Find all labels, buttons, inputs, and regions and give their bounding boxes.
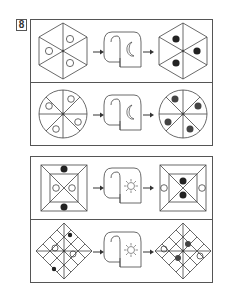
sun-scroll-icon xyxy=(104,232,141,267)
arrow-right-icon xyxy=(93,250,104,255)
hexagon-before-figure xyxy=(39,23,87,79)
moon-scroll-icon xyxy=(104,95,141,130)
sun-scroll-icon xyxy=(104,168,141,203)
arrow-right-icon xyxy=(143,250,154,255)
arrow-right-icon xyxy=(143,50,154,55)
moon-scroll-icon xyxy=(104,32,141,67)
square-after-figure xyxy=(160,165,206,211)
square-before-figure xyxy=(41,165,87,211)
puzzle-group-sun xyxy=(30,156,213,283)
hexagon-after-figure xyxy=(159,23,207,79)
puzzle-number-badge: 8 xyxy=(16,19,27,31)
puzzle-row-square xyxy=(31,157,212,220)
arrow-right-icon xyxy=(93,186,104,191)
arrow-right-icon xyxy=(143,113,154,118)
puzzle-row-diamond xyxy=(31,220,212,282)
puzzle-group-moon xyxy=(30,19,213,146)
circle-before-figure xyxy=(39,90,87,138)
arrow-right-icon xyxy=(143,186,154,191)
arrow-right-icon xyxy=(93,113,104,118)
puzzle-row-hexagon xyxy=(31,20,212,83)
puzzle-row-circle xyxy=(31,83,212,145)
diamond-after-figure xyxy=(155,223,211,279)
circle-after-figure xyxy=(159,90,207,138)
arrow-right-icon xyxy=(93,50,104,55)
diamond-before-figure xyxy=(36,223,92,279)
